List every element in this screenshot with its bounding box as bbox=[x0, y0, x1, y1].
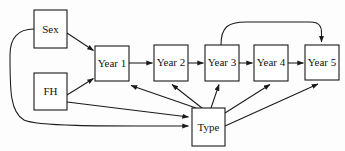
edge-type-year1 bbox=[131, 86, 196, 109]
edge-sex-year1 bbox=[67, 33, 94, 51]
node-year3[interactable]: Year 3 bbox=[205, 45, 239, 81]
edge-type-year3 bbox=[211, 85, 219, 109]
node-year2-label: Year 2 bbox=[157, 56, 186, 68]
node-sex-label: Sex bbox=[42, 23, 59, 35]
node-year5-label: Year 5 bbox=[308, 56, 337, 68]
diagram-canvas: Sex FH Year 1 Year 2 Year 3 Year 4 bbox=[0, 0, 345, 151]
node-sex[interactable]: Sex bbox=[34, 10, 67, 48]
node-year5[interactable]: Year 5 bbox=[305, 45, 339, 80]
edge-fh-type bbox=[67, 102, 189, 117]
node-year1-label: Year 1 bbox=[98, 57, 127, 69]
edge-fh-year1 bbox=[67, 79, 94, 96]
edge-type-year5 bbox=[225, 84, 318, 126]
node-year2[interactable]: Year 2 bbox=[154, 45, 188, 81]
node-year4[interactable]: Year 4 bbox=[254, 45, 288, 81]
node-year4-label: Year 4 bbox=[257, 56, 286, 68]
node-type-label: Type bbox=[198, 121, 220, 133]
node-fh[interactable]: FH bbox=[34, 73, 67, 110]
node-fh-label: FH bbox=[43, 85, 57, 97]
node-year3-label: Year 3 bbox=[208, 56, 237, 68]
node-type[interactable]: Type bbox=[192, 108, 225, 146]
graph-svg: Sex FH Year 1 Year 2 Year 3 Year 4 bbox=[0, 0, 345, 151]
node-year1[interactable]: Year 1 bbox=[95, 46, 129, 81]
edge-year3-year5 bbox=[221, 22, 322, 45]
